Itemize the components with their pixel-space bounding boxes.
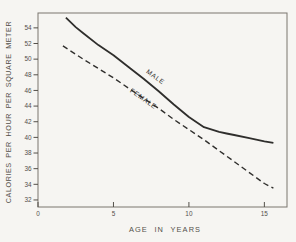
chart-svg: 323436384042444648505254051015MALEFEMALE… [0,0,296,242]
x-tick-label: 0 [36,210,40,217]
x-axis-label: AGE IN YEARS [129,225,201,234]
y-tick-label: 54 [24,24,32,31]
x-tick-label: 10 [185,210,193,217]
male-line [66,18,274,143]
y-tick-label: 36 [24,165,32,172]
y-tick-label: 40 [24,134,32,141]
y-tick-label: 34 [24,181,32,188]
y-tick-label: 44 [24,102,32,109]
y-tick-label: 42 [24,118,32,125]
female-series-label: FEMALE [129,87,158,110]
x-tick-label: 5 [112,210,116,217]
y-tick-label: 48 [24,71,32,78]
calories-vs-age-figure: 323436384042444648505254051015MALEFEMALE… [0,0,296,242]
y-tick-label: 46 [24,87,32,94]
female-line [63,46,274,188]
y-tick-label: 50 [24,55,32,62]
y-tick-label: 32 [24,196,32,203]
plot-border [38,13,287,207]
y-tick-label: 52 [24,40,32,47]
plot-area: 323436384042444648505254051015MALEFEMALE [24,13,287,217]
y-axis-label: CALORIES PER HOUR PER SQUARE METER [4,21,13,203]
y-tick-label: 38 [24,149,32,156]
x-tick-label: 15 [261,210,269,217]
